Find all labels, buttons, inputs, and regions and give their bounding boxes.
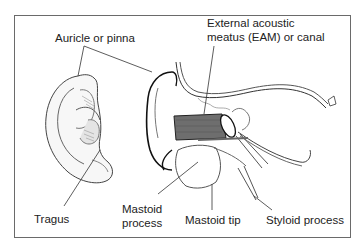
label-styloid-process: Styloid process — [266, 214, 344, 227]
auricle-drawing — [46, 75, 113, 183]
cross-section-drawing — [147, 62, 336, 200]
label-mastoid-process-line2: process — [122, 217, 162, 230]
label-auricle: Auricle or pinna — [55, 32, 135, 45]
label-eam-line2: meatus (EAM) or canal — [207, 31, 325, 44]
label-eam-line1: External acoustic — [207, 17, 295, 30]
label-mastoid-process-line1: Mastoid — [122, 203, 162, 216]
label-tragus: Tragus — [34, 213, 69, 226]
label-mastoid-tip: Mastoid tip — [185, 214, 241, 227]
